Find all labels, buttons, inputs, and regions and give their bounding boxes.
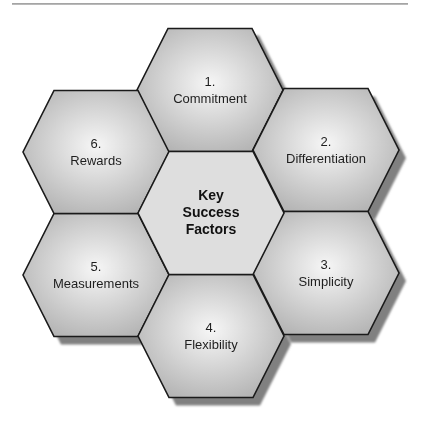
factor-2-number: 2.: [321, 134, 332, 149]
factor-1-label: Commitment: [173, 91, 247, 106]
hex-factor-2: 2. Differentiation: [253, 89, 399, 212]
factor-3-label: Simplicity: [299, 274, 354, 289]
factor-1-number: 1.: [205, 74, 216, 89]
factor-6-number: 6.: [91, 136, 102, 151]
hex-factor-4: 4. Flexibility: [138, 275, 284, 398]
factor-5-label: Measurements: [53, 276, 139, 291]
center-line-3: Factors: [186, 221, 237, 237]
factor-5-number: 5.: [91, 259, 102, 274]
factor-3-number: 3.: [321, 257, 332, 272]
factor-2-label: Differentiation: [286, 151, 366, 166]
factor-4-label: Flexibility: [184, 337, 238, 352]
center-line-1: Key: [198, 187, 224, 203]
key-success-factors-diagram: 1. Commitment 2. Differentiation 3. Simp…: [0, 0, 428, 428]
center-line-2: Success: [183, 204, 240, 220]
factor-4-number: 4.: [206, 320, 217, 335]
factor-6-label: Rewards: [70, 153, 122, 168]
hex-center: Key Success Factors: [138, 152, 284, 275]
